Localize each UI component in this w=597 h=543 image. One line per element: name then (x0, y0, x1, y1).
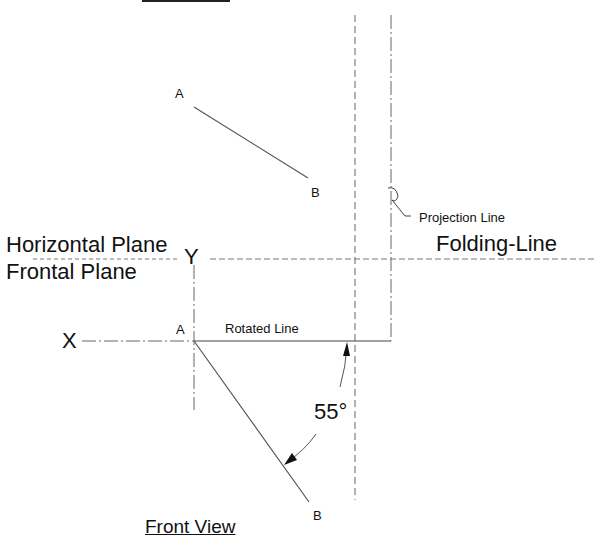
top-point-b-label: B (311, 186, 320, 199)
front-point-a-label: A (176, 323, 185, 336)
horizontal-plane-label: Horizontal Plane (6, 234, 167, 256)
folding-line-label: Folding-Line (436, 233, 557, 255)
x-axis-label: X (62, 330, 77, 352)
top-view-line-ab (194, 107, 308, 178)
angle-arrow-down-icon (284, 453, 297, 465)
frontal-plane-label: Frontal Plane (6, 261, 137, 283)
angle-label: 55° (314, 401, 347, 423)
projection-line-label: Projection Line (419, 211, 505, 224)
top-point-a-label: A (175, 87, 184, 100)
front-view-line-ab (194, 341, 309, 502)
front-point-b-label: B (313, 509, 322, 522)
y-axis-label: Y (184, 246, 199, 268)
rotated-line-label: Rotated Line (225, 322, 299, 335)
front-view-title: Front View (145, 517, 235, 536)
angle-arrow-up-icon (343, 342, 350, 356)
